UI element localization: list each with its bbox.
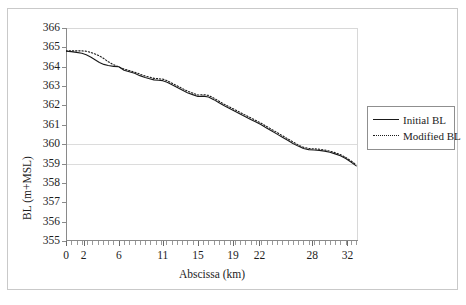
x-tick-minor <box>103 241 104 245</box>
x-tick-minor <box>124 241 125 245</box>
x-tick-minor <box>303 241 304 245</box>
x-tick-minor <box>356 241 357 245</box>
x-tick-minor <box>219 241 220 245</box>
x-tick-minor <box>351 241 352 245</box>
x-tick-minor <box>87 241 88 245</box>
x-tick-minor <box>319 241 320 245</box>
x-tick-minor <box>135 241 136 245</box>
y-tick-label: 357 <box>30 196 60 207</box>
x-tick-minor <box>330 241 331 245</box>
x-tick-minor <box>309 241 310 245</box>
legend-swatch-dotted-icon <box>373 131 399 141</box>
x-tick-minor <box>108 241 109 245</box>
x-tick-minor <box>187 241 188 245</box>
legend-label-initial-bl: Initial BL <box>403 114 446 126</box>
y-tick-label: 362 <box>30 99 60 110</box>
x-tick-label: 11 <box>148 249 178 261</box>
x-tick-label: 28 <box>297 249 327 261</box>
x-tick-major <box>119 241 120 246</box>
x-tick-minor <box>113 241 114 245</box>
x-tick-minor <box>335 241 336 245</box>
y-tick-label: 359 <box>30 158 60 169</box>
x-tick-minor <box>293 241 294 245</box>
legend-entry-modified-bl[interactable]: Modified BL <box>373 128 450 144</box>
x-tick-minor <box>140 241 141 245</box>
legend-swatch-solid-icon <box>373 115 399 125</box>
x-tick-major <box>198 241 199 246</box>
x-tick-major <box>347 241 348 246</box>
x-tick-label: 32 <box>332 249 362 261</box>
x-tick-minor <box>150 241 151 245</box>
y-tick-label: 366 <box>30 22 60 33</box>
x-tick-minor <box>230 241 231 245</box>
x-tick-minor <box>251 241 252 245</box>
figure-canvas: BL (m+MSL) 36636536436336236136035935835… <box>0 0 466 305</box>
x-tick-minor <box>172 241 173 245</box>
x-tick-label: 22 <box>244 249 274 261</box>
x-tick-minor <box>129 241 130 245</box>
data-series-plot <box>66 28 358 241</box>
x-tick-major <box>66 241 67 246</box>
y-tick-label: 365 <box>30 41 60 52</box>
y-tick-label: 358 <box>30 177 60 188</box>
x-tick-minor <box>272 241 273 245</box>
x-tick-minor <box>214 241 215 245</box>
x-tick-minor <box>203 241 204 245</box>
chart-legend[interactable]: Initial BL Modified BL <box>367 106 455 150</box>
x-tick-minor <box>177 241 178 245</box>
x-tick-label: 15 <box>183 249 213 261</box>
y-tick-label: 360 <box>30 138 60 149</box>
y-tick-label: 356 <box>30 216 60 227</box>
x-tick-minor <box>235 241 236 245</box>
x-tick-minor <box>288 241 289 245</box>
legend-label-modified-bl: Modified BL <box>403 130 461 142</box>
y-tick-label: 355 <box>30 235 60 246</box>
x-tick-minor <box>92 241 93 245</box>
x-tick-major <box>312 241 313 246</box>
x-tick-minor <box>208 241 209 245</box>
x-tick-minor <box>245 241 246 245</box>
x-tick-minor <box>267 241 268 245</box>
x-tick-minor <box>325 241 326 245</box>
y-tick-label: 361 <box>30 119 60 130</box>
x-tick-major <box>84 241 85 246</box>
x-tick-minor <box>277 241 278 245</box>
x-tick-minor <box>298 241 299 245</box>
x-tick-minor <box>77 241 78 245</box>
x-tick-minor <box>282 241 283 245</box>
series-modified-bl-line <box>66 51 356 165</box>
x-tick-label: 2 <box>69 249 99 261</box>
x-tick-major <box>259 241 260 246</box>
y-tick-label: 363 <box>30 80 60 91</box>
x-tick-minor <box>256 241 257 245</box>
x-tick-label: 6 <box>104 249 134 261</box>
x-tick-major <box>163 241 164 246</box>
x-tick-minor <box>193 241 194 245</box>
x-tick-minor <box>240 241 241 245</box>
x-tick-minor <box>261 241 262 245</box>
x-tick-minor <box>98 241 99 245</box>
x-tick-minor <box>145 241 146 245</box>
x-tick-major <box>233 241 234 246</box>
x-tick-minor <box>156 241 157 245</box>
x-axis-title: Abscissa (km) <box>66 268 358 280</box>
x-tick-minor <box>182 241 183 245</box>
y-tick-label: 364 <box>30 61 60 72</box>
x-tick-minor <box>314 241 315 245</box>
legend-entry-initial-bl[interactable]: Initial BL <box>373 112 450 128</box>
x-tick-minor <box>71 241 72 245</box>
x-tick-minor <box>224 241 225 245</box>
x-tick-minor <box>166 241 167 245</box>
x-tick-minor <box>340 241 341 245</box>
